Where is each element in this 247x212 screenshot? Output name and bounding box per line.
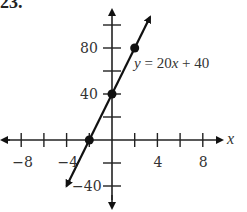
coordinate-plane: [0, 0, 247, 212]
equation-label: y = 20x + 40: [134, 55, 209, 72]
data-point: [85, 136, 94, 145]
x-tick-label: 8: [199, 155, 208, 169]
y-tick-label: 80: [80, 41, 98, 55]
x-tick-label: 4: [153, 155, 162, 169]
x-tick-label: −4: [58, 155, 79, 169]
y-tick-label: 40: [80, 87, 98, 101]
y-tick-label: −40: [72, 179, 102, 193]
x-axis-label: x: [227, 130, 234, 148]
data-point: [108, 90, 117, 99]
x-tick-label: −8: [12, 155, 33, 169]
data-point: [130, 44, 139, 53]
